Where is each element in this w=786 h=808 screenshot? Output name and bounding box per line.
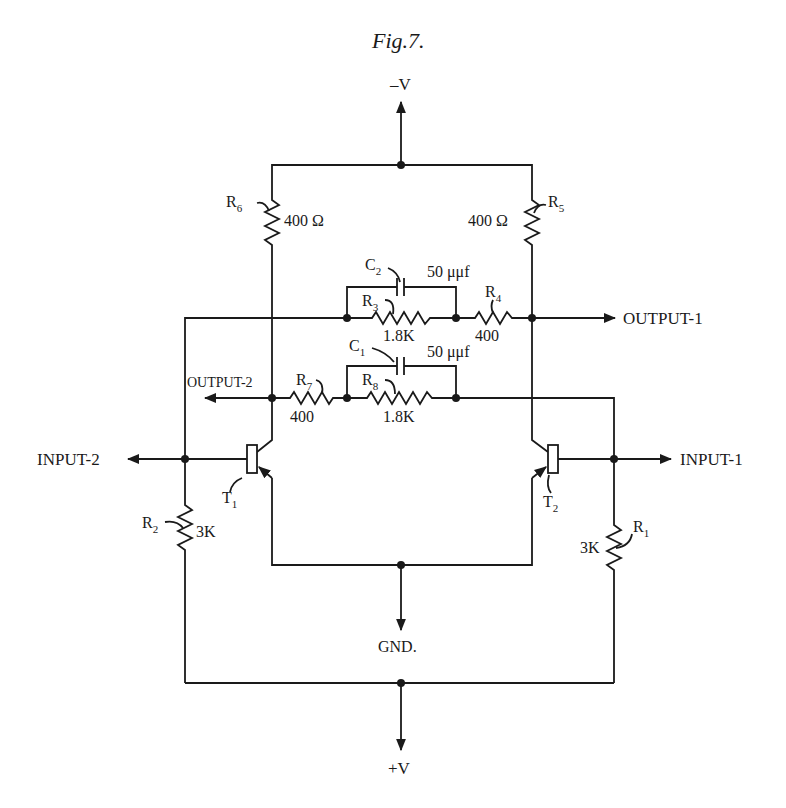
output-2-label: OUTPUT-2 [187,376,253,390]
c2-wire-right [404,287,456,318]
input-2-label: INPUT-2 [37,451,100,468]
r5-value: 400 Ω [468,213,508,229]
r8-leader [385,380,395,394]
circuit-diagram: Fig.7. –V +V GND. INPUT-2 INPUT-1 OUTPUT… [0,0,786,808]
r4-resistor [456,312,532,324]
r1-resistor [607,459,621,683]
r8-value: 1.8K [383,409,415,425]
c2-name: C2 [365,257,381,273]
c1-leader [372,348,394,362]
neg-supply-label: –V [390,76,411,93]
r2-name: R2 [142,515,158,531]
c2-value: 50 μμf [427,264,469,280]
r8-resistor [347,392,456,404]
r2-leader [165,522,183,528]
r2-value: 3K [196,524,216,540]
r7-value: 400 [290,409,314,425]
c2-leader [388,268,400,282]
r3-resistor [347,312,456,324]
t2-leader [548,475,551,493]
t2-base [548,445,558,473]
r3-name: R3 [362,293,378,309]
input-1-label: INPUT-1 [680,451,743,468]
c1-value: 50 μμf [427,344,469,360]
t1-emitter-wire [272,478,532,565]
r1-value: 3K [580,540,600,556]
r4-value: 400 [475,328,499,344]
r5-name: R5 [548,194,564,210]
feedback-wire-right [456,398,614,459]
r3-value: 1.8K [383,328,415,344]
r1-name: R1 [633,519,649,535]
t1-collector-wire [257,250,272,452]
output-1-label: OUTPUT-1 [623,310,703,327]
figure-title: Fig.7. [372,30,425,52]
r4-leader [492,300,494,313]
t1-name: T1 [222,490,237,506]
r6-value: 400 Ω [284,213,324,229]
r5-resistor [525,195,539,250]
r6-leader [257,203,269,211]
pos-supply-label: +V [388,760,410,777]
t2-name: T2 [543,494,558,510]
gnd-label: GND. [378,639,417,655]
r4-name: R4 [485,284,501,300]
t2-emitter [532,467,546,478]
r7-name: R7 [296,372,312,388]
r7-leader [316,380,322,394]
t2-collector-wire [532,250,548,452]
r6-resistor [265,195,279,250]
c1-name: C1 [349,338,365,354]
r2-resistor [178,459,192,683]
r8-name: R8 [362,372,378,388]
r7-resistor [272,392,347,404]
r6-name: R6 [226,194,242,210]
schematic-drawing [0,0,786,808]
t1-emitter [259,467,272,478]
t1-base [247,445,257,473]
top-rail-wire [272,165,532,195]
